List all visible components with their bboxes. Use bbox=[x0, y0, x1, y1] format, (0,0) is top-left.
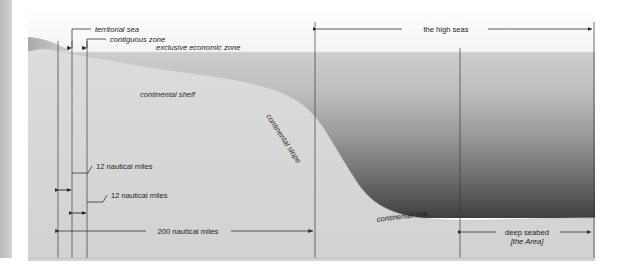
high-seas-label: the high seas bbox=[423, 25, 468, 34]
left-edge-bar bbox=[0, 0, 12, 258]
two-hundred-nm-label: 200 nautical miles bbox=[158, 227, 219, 236]
twelve-nm-contiguous-label: 12 nautical miles bbox=[111, 191, 168, 200]
twelve-nm-territorial-label: 12 nautical miles bbox=[96, 162, 153, 171]
territorial-sea-label: territorial sea bbox=[95, 25, 139, 34]
continental-shelf-label: continental shelf bbox=[140, 90, 196, 99]
diagram-stage: territorial sea contiguous zone exclusiv… bbox=[0, 0, 621, 278]
deep-seabed-label-line1: deep seabed bbox=[505, 228, 549, 237]
maritime-zones-diagram: territorial sea contiguous zone exclusiv… bbox=[28, 8, 595, 261]
deep-seabed-label-line2: [the Area] bbox=[510, 237, 545, 246]
exclusive-economic-zone-label: exclusive economic zone bbox=[156, 43, 240, 52]
